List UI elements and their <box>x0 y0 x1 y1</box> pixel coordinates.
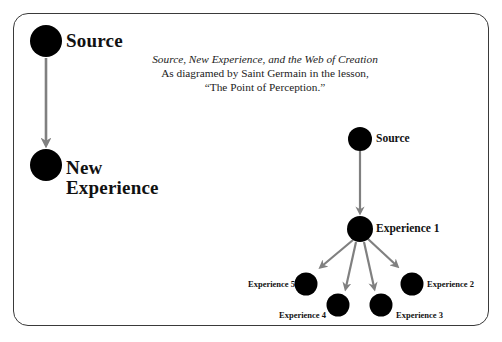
arrow-experience-1-to-experience-3 <box>364 242 374 287</box>
left-diagram <box>30 25 62 181</box>
experience-2-node <box>401 273 424 296</box>
source-node <box>30 25 62 57</box>
experience-2-label: Experience 2 <box>427 280 474 289</box>
experience-5-label: Experience 5 <box>248 280 295 289</box>
caption-title: Source, New Experience, and the Web of C… <box>150 52 380 66</box>
right-source-label: Source <box>376 133 410 145</box>
arrow-experience-1-to-experience-5 <box>322 240 353 266</box>
right-source-node <box>348 127 372 151</box>
experience-5-node <box>295 273 318 296</box>
arrow-experience-1-to-experience-4 <box>346 242 356 287</box>
experience-4-label: Experience 4 <box>279 311 326 320</box>
experience-1-label: Experience 1 <box>376 223 440 235</box>
diagram-caption: Source, New Experience, and the Web of C… <box>150 52 380 94</box>
caption-line-3: “The Point of Perception.” <box>150 80 380 94</box>
source-label: Source <box>66 31 123 50</box>
new-experience-node <box>30 149 62 181</box>
caption-line-2: As diagramed by Saint Germain in the les… <box>150 66 380 80</box>
experience-4-node <box>327 294 350 317</box>
experience-3-node <box>370 294 393 317</box>
new-experience-label-line2: Experience <box>66 178 159 197</box>
experience-3-label: Experience 3 <box>396 311 443 320</box>
arrow-experience-1-to-experience-2 <box>368 239 396 265</box>
new-experience-label-line1: New <box>66 158 102 177</box>
experience-1-node <box>347 216 373 242</box>
